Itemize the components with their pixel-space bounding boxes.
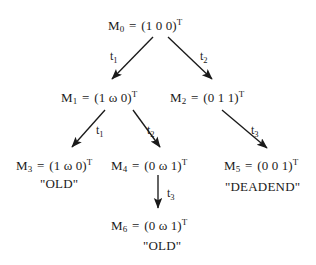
transpose-superscript: T [239,89,245,99]
marking-name: M [111,218,123,233]
edge-label-e4: t2 [147,124,155,138]
marking-vector: (0 ω 1) [144,158,181,173]
marking-node-m3: M3 = (1 ω 0)T [16,158,92,174]
equals-sign: = [131,218,141,233]
marking-node-m0: M0 = (1 0 0)T [108,18,182,34]
marking-index: 1 [73,96,78,106]
marking-node-m6: M6 = (0 ω 1)T [111,218,187,234]
marking-index: 5 [236,164,241,174]
node-tag-m6: "OLD" [143,239,181,252]
marking-name: M [108,18,120,33]
edge-label-e5: t3 [251,124,259,138]
transpose-superscript: T [182,217,188,227]
marking-vector: (1 ω 0) [94,90,131,105]
node-tag-m5: "DEADEND" [225,180,300,193]
marking-node-m2: M2 = (0 1 1)T [170,90,244,106]
equals-sign: = [190,90,200,105]
equals-sign: = [128,18,138,33]
transpose-superscript: T [177,17,183,27]
edge-label-e2: t2 [200,50,208,64]
marking-name: M [170,90,182,105]
transition-index: 1 [113,55,117,65]
edge-label-e3: t1 [96,124,104,138]
marking-name: M [224,158,236,173]
equals-sign: = [81,90,91,105]
transpose-superscript: T [132,89,138,99]
marking-index: 4 [123,164,128,174]
node-tag-m3: "OLD" [40,177,78,190]
marking-node-m5: M5 = (0 0 1)T [224,158,298,174]
edge-label-e1: t1 [110,50,118,64]
marking-vector: (0 ω 1) [144,218,181,233]
marking-vector: (1 0 0) [141,18,176,33]
marking-node-m1: M1 = (1 ω 0)T [61,90,137,106]
marking-name: M [16,158,28,173]
marking-index: 6 [123,224,128,234]
transition-index: 2 [203,55,207,65]
edge-arrow-m2-to-m5 [222,110,267,148]
reachability-tree-diagram: M0 = (1 0 0)TM1 = (1 ω 0)TM2 = (0 1 1)TM… [0,0,316,265]
transition-index: 3 [254,129,258,139]
marking-index: 2 [182,96,187,106]
transition-index: 3 [170,192,174,202]
marking-name: M [111,158,123,173]
marking-name: M [61,90,73,105]
equals-sign: = [244,158,254,173]
marking-vector: (1 ω 0) [49,158,86,173]
transpose-superscript: T [182,157,188,167]
transpose-superscript: T [87,157,93,167]
marking-vector: (0 1 1) [203,90,238,105]
transition-index: 2 [150,129,154,139]
edge-arrow-m0-to-m1 [112,37,153,79]
marking-vector: (0 0 1) [257,158,292,173]
marking-node-m4: M4 = (0 ω 1)T [111,158,187,174]
edge-label-e6: t3 [167,187,175,201]
equals-sign: = [36,158,46,173]
marking-index: 3 [28,164,33,174]
transition-index: 1 [99,129,103,139]
marking-index: 0 [120,24,125,34]
transpose-superscript: T [293,157,299,167]
equals-sign: = [131,158,141,173]
